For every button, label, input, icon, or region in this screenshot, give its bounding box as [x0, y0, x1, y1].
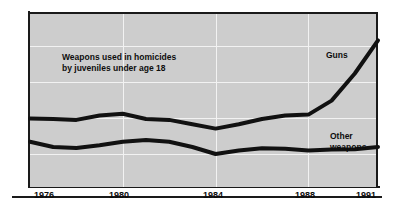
x-tick-1984: 1984 [203, 190, 223, 200]
x-tick-1980: 1980 [109, 190, 129, 200]
chart-annotation: Weapons used in homicides by juveniles u… [62, 52, 176, 74]
chart-figure: 2,000 1,600 1,200 800 400 0 Weapons used… [0, 0, 394, 219]
series-label-other-weapons: Other weapons [330, 131, 366, 153]
series-label-other-line-1: Other [330, 131, 366, 142]
x-tick-1988: 1988 [295, 190, 315, 200]
annotation-line-2: by juveniles under age 18 [62, 63, 176, 74]
series-label-guns: Guns [326, 50, 348, 61]
figure-bottom-rule [12, 196, 382, 198]
other-weapons-line [30, 140, 378, 154]
series-label-other-line-2: weapons [330, 142, 366, 153]
series-lines [30, 14, 378, 189]
annotation-line-1: Weapons used in homicides [62, 52, 176, 63]
plot-area [30, 12, 378, 187]
x-tick-1976: 1976 [34, 190, 54, 200]
x-tick-1991: 1991 [356, 190, 376, 200]
cut-off-header-text [2, 0, 122, 5]
